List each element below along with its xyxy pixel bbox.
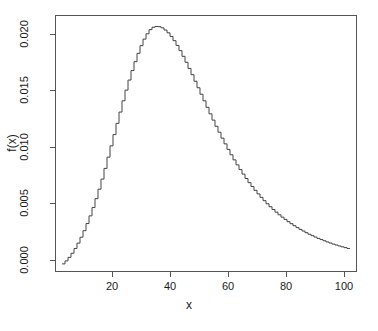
density-curve (56, 16, 356, 271)
y-tick-label-2: 0.010 (18, 123, 30, 171)
y-tick-3 (50, 90, 55, 91)
x-tick-label-2: 60 (208, 280, 248, 292)
x-tick-1 (170, 272, 171, 277)
x-tick-0 (112, 272, 113, 277)
x-tick-label-3: 80 (266, 280, 306, 292)
y-tick-1 (50, 203, 55, 204)
y-tick-label-3: 0.015 (18, 66, 30, 114)
x-tick-label-1: 40 (150, 280, 190, 292)
x-axis-label: x (0, 298, 378, 312)
plot-area (55, 15, 357, 272)
y-tick-label-4: 0.020 (18, 10, 30, 58)
x-tick-2 (228, 272, 229, 277)
x-tick-label-4: 100 (324, 280, 364, 292)
y-tick-label-0: 0.000 (18, 236, 30, 284)
y-tick-2 (50, 147, 55, 148)
x-tick-4 (344, 272, 345, 277)
figure-canvas: 20 40 60 80 100 0.000 0.005 0.010 0.015 … (0, 0, 378, 331)
y-tick-0 (50, 260, 55, 261)
y-tick-4 (50, 34, 55, 35)
x-tick-label-0: 20 (92, 280, 132, 292)
curve-polyline (62, 26, 350, 263)
x-tick-3 (286, 272, 287, 277)
y-axis-label: f(x) (5, 119, 19, 167)
y-tick-label-1: 0.005 (18, 179, 30, 227)
